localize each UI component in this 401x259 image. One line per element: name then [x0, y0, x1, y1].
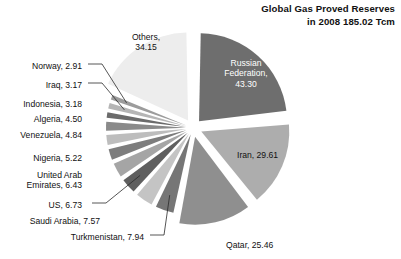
slice-label-iran: Iran, 29.61 — [237, 150, 278, 160]
slice-label-venezuela: Venezuela, 4.84 — [0, 130, 82, 140]
slice-label-united-arab-emirates: United Arab Emirates, 6.43 — [0, 170, 82, 191]
chart-title-line-1: Global Gas Proved Reserves — [261, 3, 395, 16]
slice-label-others-line2: 34.15 — [120, 42, 172, 52]
chart-title: Global Gas Proved Reserves in 2008 185.0… — [261, 3, 395, 28]
slice-label-iraq: Iraq, 3.17 — [0, 80, 82, 90]
slice-label-us: US, 6.73 — [0, 200, 82, 210]
slice-label-turkmenistan: Turkmenistan, 7.94 — [0, 232, 144, 242]
slice-label-others: Others, 34.15 — [120, 32, 172, 53]
slice-label-russia-line3: 43.30 — [211, 79, 281, 89]
slice-label-norway: Norway, 2.91 — [0, 61, 82, 71]
chart-title-line-2: in 2008 185.02 Tcm — [261, 16, 395, 29]
slice-label-russia-line2: Federation, — [211, 68, 281, 78]
slice-label-others-line1: Others, — [120, 32, 172, 42]
slice-label-indonesia: Indonesia, 3.18 — [0, 99, 82, 109]
slice-label-russia-line1: Russian — [211, 58, 281, 68]
slice-label-uae-line2: Emirates, 6.43 — [0, 180, 82, 190]
slice-label-saudi-arabia: Saudi Arabia, 7.57 — [0, 216, 100, 226]
slice-label-nigeria: Nigeria, 5.22 — [0, 153, 82, 163]
slice-label-qatar: Qatar, 25.46 — [226, 240, 273, 250]
chart-canvas: Global Gas Proved Reserves in 2008 185.0… — [0, 0, 401, 259]
slice-label-russian-federation: Russian Federation, 43.30 — [211, 58, 281, 89]
slice-label-uae-line1: United Arab — [0, 170, 82, 180]
slice-label-algeria: Algeria, 4.50 — [0, 114, 82, 124]
